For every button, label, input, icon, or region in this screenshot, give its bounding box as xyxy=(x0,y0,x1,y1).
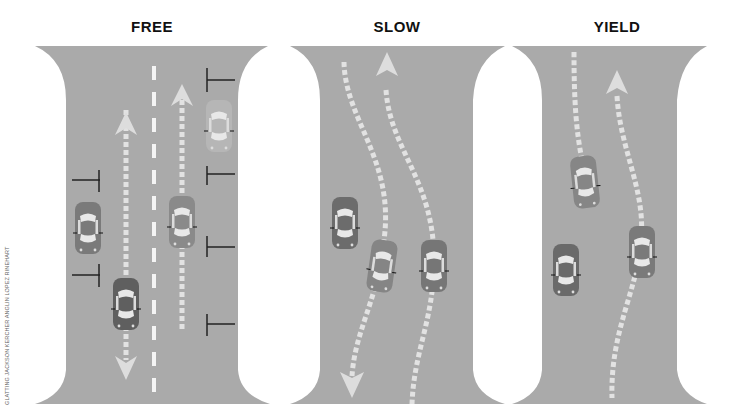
parked-car xyxy=(330,197,360,249)
moving-car xyxy=(167,196,197,248)
parked-car xyxy=(551,244,581,296)
street-diagram xyxy=(0,0,733,417)
moving-car xyxy=(111,278,141,330)
road-slow xyxy=(290,46,505,404)
parked-car xyxy=(73,202,103,254)
moving-car xyxy=(419,240,449,292)
road-yield xyxy=(512,46,707,404)
moving-car xyxy=(627,226,657,278)
parked-car-faded xyxy=(204,100,234,152)
